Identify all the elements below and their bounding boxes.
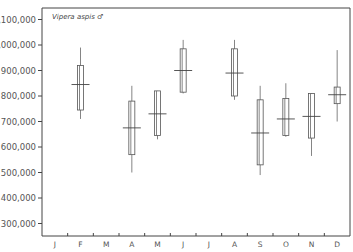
box-plot-a bbox=[226, 40, 244, 100]
species-annotation: Vipera aspis ♂ bbox=[52, 13, 103, 21]
y-tick-label: 500,000 bbox=[1, 168, 36, 178]
y-tick-label: 400,000 bbox=[1, 193, 36, 203]
iqr-box bbox=[232, 49, 238, 96]
x-tick-label: N bbox=[309, 240, 315, 249]
y-axis: 300,000400,000500,000600,000700,000800,0… bbox=[0, 15, 42, 229]
iqr-box bbox=[334, 87, 340, 104]
y-tick-label: 700,000 bbox=[1, 117, 36, 127]
box-plot-n bbox=[303, 93, 321, 155]
x-tick-label: J bbox=[207, 240, 210, 249]
iqr-box bbox=[257, 100, 263, 165]
box-plot-d bbox=[328, 50, 346, 121]
x-tick-label: A bbox=[232, 240, 238, 249]
x-tick-label: D bbox=[334, 240, 340, 249]
x-tick-label: A bbox=[129, 240, 135, 249]
x-axis: JFMAMJJASOND bbox=[53, 233, 341, 249]
plot-frame bbox=[42, 8, 350, 236]
iqr-box bbox=[309, 93, 315, 138]
box-plot-m bbox=[149, 91, 167, 139]
box-plot-o bbox=[277, 83, 295, 137]
plot-border bbox=[42, 8, 350, 236]
y-tick-label: 800,000 bbox=[1, 91, 36, 101]
x-tick-label: J bbox=[53, 240, 56, 249]
x-tick-label: J bbox=[181, 240, 184, 249]
box-plot-a bbox=[123, 86, 141, 173]
box-series bbox=[72, 40, 347, 175]
y-tick-label: 600,000 bbox=[1, 142, 36, 152]
box-plot-chart: 300,000400,000500,000600,000700,000800,0… bbox=[0, 0, 353, 252]
x-tick-label: O bbox=[283, 240, 289, 249]
iqr-box bbox=[155, 91, 161, 136]
y-tick-label: 1,000,000 bbox=[0, 40, 36, 50]
box-plot-f bbox=[72, 48, 90, 119]
box-plot-j bbox=[174, 40, 192, 94]
x-tick-label: S bbox=[258, 240, 263, 249]
box-plot-s bbox=[251, 86, 269, 175]
iqr-box bbox=[283, 99, 289, 136]
x-tick-label: F bbox=[78, 240, 82, 249]
iqr-box bbox=[78, 65, 84, 110]
y-tick-label: 1,100,000 bbox=[0, 15, 36, 25]
y-tick-label: 300,000 bbox=[1, 219, 36, 229]
x-tick-label: M bbox=[154, 240, 160, 249]
x-tick-label: M bbox=[103, 240, 109, 249]
y-tick-label: 900,000 bbox=[1, 66, 36, 76]
